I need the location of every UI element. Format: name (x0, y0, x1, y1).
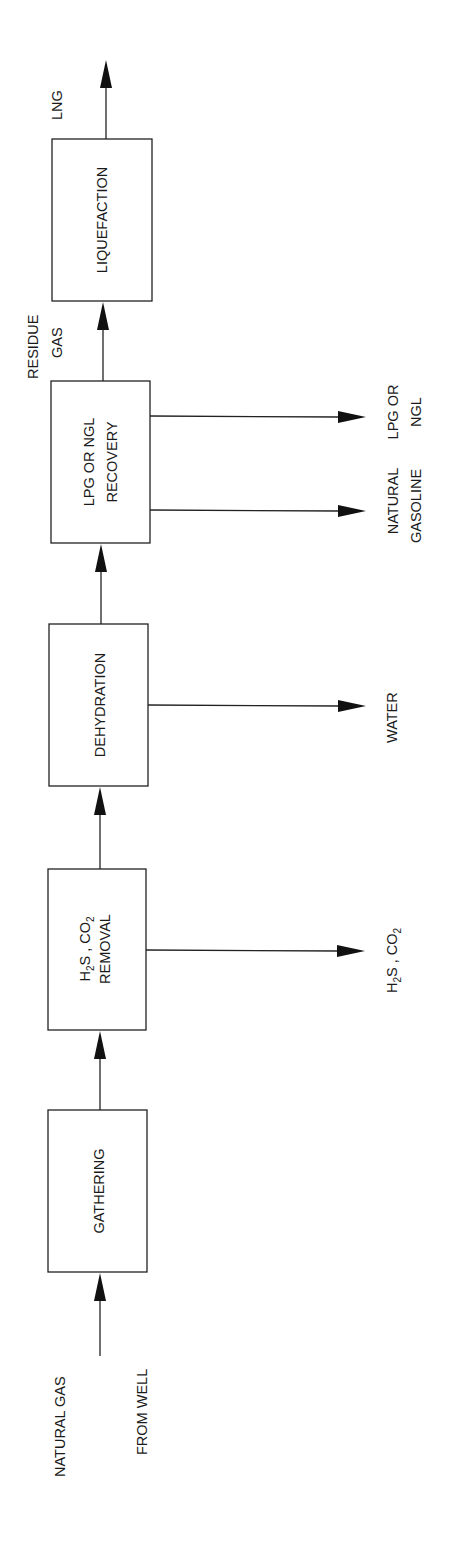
acid-gas-byproduct-label: H2S , CO2 (384, 927, 403, 993)
flow-recovery-to-liquefaction: RESIDUE GAS (25, 302, 109, 381)
natural-gasoline-byproduct-label-line1: NATURAL (385, 468, 401, 535)
arrow-up-icon (100, 60, 112, 88)
byproduct-acid-gas: H2S , CO2 (146, 927, 403, 993)
byproduct-natural-gasoline: NATURAL GASOLINE (150, 468, 424, 543)
water-flow-line (148, 705, 340, 706)
input-label-from-well: FROM WELL (134, 1369, 150, 1455)
arrow-right-icon (338, 505, 366, 517)
byproduct-water: WATER (148, 692, 400, 743)
flow-removal-to-dehydration (94, 787, 106, 869)
arrow-up-icon (94, 1273, 106, 1301)
byproduct-lpg-ngl: LPG OR NGL (150, 385, 424, 440)
arrow-right-icon (337, 945, 365, 957)
arrow-up-icon (97, 302, 109, 330)
output-stream: LNG (49, 60, 112, 139)
stage-lpg-ngl-recovery: LPG OR NGL RECOVERY (51, 381, 150, 543)
arrow-right-icon (338, 700, 366, 712)
acid-gas-flow-line (146, 950, 340, 951)
input-stream: NATURAL GAS FROM WELL (52, 1273, 150, 1477)
recovery-label-line1: LPG OR NGL (81, 418, 97, 507)
natural-gasoline-flow-line (150, 510, 340, 511)
input-label-natural-gas: NATURAL GAS (52, 1376, 68, 1477)
lpg-ngl-recovery-box (51, 381, 150, 543)
stage-gathering: GATHERING (48, 1110, 147, 1272)
acid-gas-removal-label-line2: REMOVAL (97, 914, 113, 984)
liquefaction-label: LIQUEFACTION (94, 167, 110, 273)
arrow-up-icon (95, 544, 107, 572)
lpg-ngl-byproduct-label-line1: LPG OR (385, 385, 401, 440)
flow-dehydration-to-recovery (95, 544, 107, 624)
stage-liquefaction: LIQUEFACTION (52, 139, 152, 301)
arrow-up-icon (94, 1031, 106, 1059)
flow-gathering-to-removal (94, 1031, 106, 1110)
lpg-ngl-flow-line (150, 416, 340, 417)
stage-acid-gas-removal: H2S , CO2 REMOVAL (48, 869, 146, 1030)
dehydration-label: DEHYDRATION (92, 653, 108, 757)
arrow-right-icon (338, 411, 366, 423)
gathering-label: GATHERING (91, 1148, 107, 1233)
recovery-label-line2: RECOVERY (104, 421, 120, 502)
lpg-ngl-byproduct-label-line2: NGL (408, 397, 424, 427)
process-flow-diagram: NATURAL GAS FROM WELL GATHERING H2S , CO… (0, 0, 457, 1551)
lng-output-label: LNG (49, 90, 65, 120)
arrow-up-icon (94, 787, 106, 815)
water-byproduct-label: WATER (384, 692, 400, 743)
stage-dehydration: DEHYDRATION (49, 624, 148, 786)
residue-gas-label-line1: RESIDUE (25, 314, 41, 379)
natural-gasoline-byproduct-label-line2: GASOLINE (408, 469, 424, 543)
residue-gas-label-line2: GAS (49, 327, 65, 358)
